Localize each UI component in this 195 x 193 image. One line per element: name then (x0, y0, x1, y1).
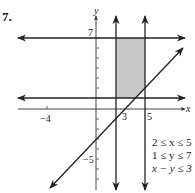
tick-label-neg5: −5 (83, 155, 94, 165)
tick-label-neg4: −4 (40, 114, 51, 124)
inequality-y-range: 1 ≤ y ≤ 7 (152, 149, 192, 162)
tick-label-5: 5 (147, 112, 152, 122)
tick-label-3: 3 (122, 112, 127, 122)
tick-label-7: 7 (88, 28, 93, 38)
inequality-x-minus-y: x − y ≤ 3 (152, 162, 192, 175)
inequality-x-range: 2 ≤ x ≤ 5 (152, 136, 192, 149)
x-axis-label: x (186, 104, 190, 114)
inequality-list: 2 ≤ x ≤ 5 1 ≤ y ≤ 7 x − y ≤ 3 (152, 136, 192, 175)
y-axis-label: y (94, 6, 98, 16)
feasible-region (116, 38, 145, 98)
